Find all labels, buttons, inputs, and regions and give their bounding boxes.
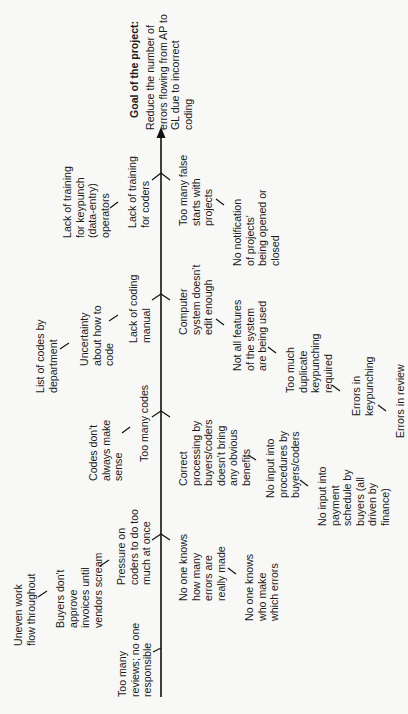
cause-lack-of-coding-manual: Lack of coding manual: [127, 275, 152, 343]
cause-no-one-knows-how-many-errors: No one knows how many errors are really …: [177, 534, 227, 601]
subcause-uneven-work-flow: Uneven work flow throughout: [12, 574, 37, 646]
cause-pressure-on-coders: Pressure on coders to do too much at onc…: [115, 509, 153, 585]
subcause-uncertainty-how-to-code: Uncertainty about how to code: [78, 305, 116, 366]
subcause-no-notification: No notification of projects' being opene…: [231, 189, 281, 266]
cause-correct-processing: Correct processing by buyers/coders does…: [177, 419, 253, 486]
fishbone-diagram: Goal of the project: Reduce the number o…: [0, 0, 408, 714]
cause-too-many-codes: Too many codes: [138, 385, 151, 462]
subcause-list-of-codes: List of codes by department: [34, 319, 59, 393]
branch-tick: [153, 648, 161, 652]
subcause-no-input-procedures: No input into procedures by buyers/coder…: [264, 431, 302, 498]
subcause-lack-of-training-keypunch: Lack of training for keypunch (data-entr…: [61, 166, 111, 238]
subcause-duplicate-keypunching: Too much duplicate keypunching required: [284, 334, 334, 394]
goal-title: Goal of the project:: [128, 21, 141, 118]
subcause-errors-in-keypunching: Errors in keypunching: [350, 357, 375, 417]
subcause-not-all-features: Not all features of the system are being…: [231, 300, 269, 371]
subcause-errors-in-review: Errors in review: [394, 364, 407, 438]
cause-too-many-reviews: Too many reviews; no one responsible: [116, 623, 154, 697]
subcause-no-input-payment-schedule: No input into payment schedule by buyers…: [316, 467, 392, 526]
subcause-codes-dont-make-sense: Codes don't always make sense: [87, 420, 125, 481]
goal-description: Reduce the number of errors flowing from…: [144, 14, 194, 130]
subcause-buyers-dont-approve: Buyers don't approve invoices until vend…: [54, 553, 104, 628]
cause-lack-of-training-coders: Lack of training for coders: [126, 156, 151, 228]
subcause-no-one-knows-who: No one knows who make which errors: [243, 554, 281, 621]
cause-computer-system: Computer system doesn't edit enough: [177, 265, 215, 335]
cause-too-many-false-starts: Too many false starts with projects: [177, 155, 215, 226]
